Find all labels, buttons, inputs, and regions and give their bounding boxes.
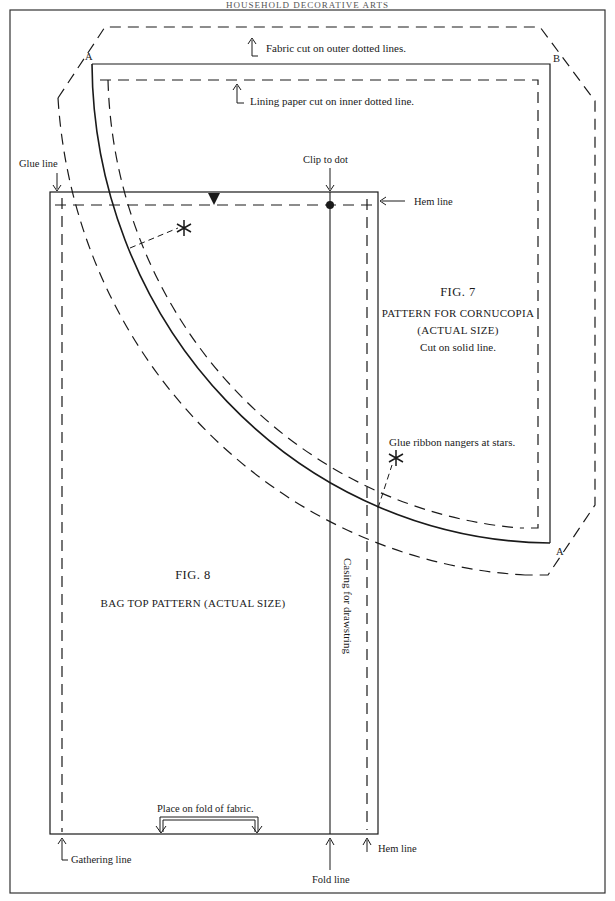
fig7-lining-dashed-arc xyxy=(108,80,520,528)
fabric-cut-note: Fabric cut on outer dotted lines. xyxy=(266,42,406,55)
fold-line-arrow xyxy=(326,838,334,870)
fig7-number: FIG. 7 xyxy=(386,286,530,299)
fabric-note-arrow xyxy=(248,38,258,56)
clip-to-dot-label: Clip to dot xyxy=(303,153,348,166)
fig8-title: BAG TOP PATTERN (ACTUAL SIZE) xyxy=(88,597,298,610)
fig7-solid-cut-line xyxy=(92,64,550,543)
fig7-title: PATTERN FOR CORNUCOPIA xyxy=(380,307,536,320)
ribbon-hangers-note: Glue ribbon nangers at stars. xyxy=(389,436,515,449)
fig7-solid-arc xyxy=(92,64,550,543)
star-leader-2 xyxy=(378,465,392,508)
lining-cut-note: Lining paper cut on inner dotted line. xyxy=(250,95,414,108)
notch-triangle-icon xyxy=(208,193,220,205)
point-b-label: B xyxy=(553,52,560,65)
star-icon xyxy=(177,220,191,236)
fig8-outline xyxy=(50,192,378,834)
pattern-diagram xyxy=(0,0,615,901)
fig7-cornucopia-pattern xyxy=(58,27,595,575)
hem-line-arrow-bottom xyxy=(363,838,371,852)
glue-line-label: Glue line xyxy=(19,157,58,170)
fig8-number: FIG. 8 xyxy=(118,569,268,582)
hem-line-bottom-label: Hem line xyxy=(378,842,417,855)
fold-line-label: Fold line xyxy=(312,873,350,886)
casing-label: Casing for drawstring xyxy=(342,558,354,654)
lining-note-arrow xyxy=(233,84,244,103)
fold-bracket xyxy=(160,817,258,832)
point-a-top-label: A xyxy=(85,50,93,63)
fig8-bag-top-pattern xyxy=(50,192,378,834)
star-icon xyxy=(389,450,403,466)
fig7-instruction: Cut on solid line. xyxy=(386,341,530,354)
fig7-lining-dashed-line xyxy=(100,80,538,528)
hem-line-top-label: Hem line xyxy=(414,195,453,208)
gathering-line-label: Gathering line xyxy=(71,853,131,866)
point-a-bottom-label: A xyxy=(556,545,564,558)
fig7-fabric-dashed-line xyxy=(58,27,595,575)
place-on-fold-label: Place on fold of fabric. xyxy=(157,802,254,815)
clip-arrow xyxy=(326,168,334,191)
glue-line-arrow xyxy=(53,173,61,191)
hem-line-arrow-top xyxy=(380,197,405,205)
fig7-subtitle: (ACTUAL SIZE) xyxy=(386,324,530,337)
clip-dot-icon xyxy=(326,201,334,209)
gathering-line-arrow xyxy=(58,838,68,860)
